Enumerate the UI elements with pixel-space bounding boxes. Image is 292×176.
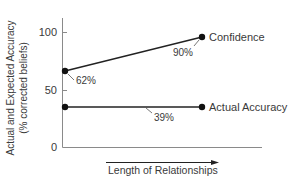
actual-accuracy-series-label: Actual Accuracy	[209, 101, 288, 113]
x-axis-label: Length of Relationships	[108, 164, 218, 176]
leader-line-62	[68, 74, 74, 80]
y-axis-label-line1: Actual and Expected Accuracy	[5, 20, 16, 155]
y-tick-label-50: 50	[45, 84, 57, 96]
leader-line-90	[194, 40, 199, 46]
y-tick-label-100: 100	[39, 26, 57, 38]
confidence-end-value-label: 90%	[173, 47, 193, 58]
y-axis-label-line2: (% corrected beliefs)	[18, 42, 29, 134]
y-tick-label-0: 0	[51, 141, 57, 153]
confidence-series-label: Confidence	[209, 31, 265, 43]
confidence-start-value-label: 62%	[76, 75, 96, 86]
leader-line-39	[146, 108, 152, 113]
actual-accuracy-point-end	[199, 104, 205, 110]
actual-accuracy-point-start	[62, 104, 68, 110]
confidence-point-start	[62, 68, 68, 74]
confidence-point-end	[199, 34, 205, 40]
actual-accuracy-value-label: 39%	[154, 112, 174, 123]
line-chart: Actual and Expected Accuracy (% correcte…	[0, 0, 292, 176]
